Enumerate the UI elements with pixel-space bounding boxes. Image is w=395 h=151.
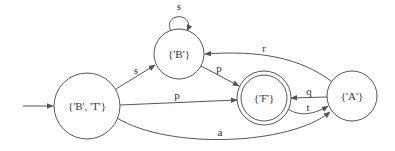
edge-label-A-B: r (262, 42, 266, 54)
edge-label-A-F: q (306, 85, 312, 97)
edge-A-F-q (291, 97, 327, 98)
edge-label-BT-A: a (218, 126, 223, 138)
state-label-B: {'B'} (168, 48, 190, 60)
automaton-diagram: s s p p r q t a {'B', 'T'} {'B'} {'F'} {… (0, 0, 395, 151)
state-node-F-accepting: {'F'} (237, 71, 291, 125)
state-node-BT: {'B', 'T'} (54, 73, 120, 139)
state-label-A: {'A'} (341, 90, 363, 102)
edge-label-BT-B: s (134, 64, 138, 76)
edge-label-BT-F: p (174, 89, 180, 101)
edge-BT-A-a (117, 112, 330, 140)
state-node-B: {'B'} (154, 29, 204, 79)
edge-label-B-B: s (177, 0, 181, 12)
state-label-BT: {'B', 'T'} (68, 100, 106, 112)
edge-label-F-A: t (306, 101, 309, 113)
edge-label-B-F: p (216, 62, 222, 74)
state-label-F: {'F'} (254, 92, 275, 104)
state-node-A: {'A'} (327, 71, 377, 121)
